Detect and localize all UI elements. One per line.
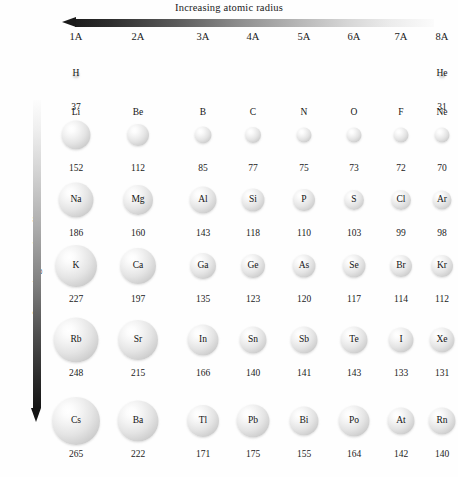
element-symbol-h: H — [73, 69, 80, 79]
top-arrow-caption: Increasing atomic radius — [0, 2, 458, 13]
sphere-area: Ar — [410, 174, 458, 226]
horizontal-arrow-head-icon — [62, 17, 76, 27]
group-header-6a: 6A — [334, 31, 374, 42]
increasing-radius-horizontal-arrow — [62, 17, 434, 28]
sphere-area: He — [410, 48, 458, 100]
atom-sphere-be — [127, 124, 149, 146]
sphere-area: H — [44, 48, 108, 100]
group-header-7a: 7A — [381, 31, 421, 42]
atom-sphere-ne — [435, 128, 450, 143]
element-symbol-k: K — [73, 261, 80, 271]
element-symbol-rn: Rn — [436, 416, 447, 426]
element-symbol-pb: Pb — [248, 416, 258, 426]
element-symbol-se: Se — [349, 261, 359, 271]
element-symbol-kr: Kr — [437, 261, 447, 271]
atomic-radius-value-ar: 98 — [410, 229, 458, 239]
element-symbol-si: Si — [249, 195, 257, 205]
element-symbol-ba: Ba — [133, 416, 144, 426]
element-symbol-ge: Ge — [247, 261, 258, 271]
element-cell-he[interactable]: He31 — [410, 48, 458, 100]
atomic-radius-value-rn: 140 — [410, 450, 458, 460]
element-cell-na[interactable]: Na186 — [44, 174, 108, 226]
sphere-area: Cs — [44, 395, 108, 447]
sphere-area: Na — [44, 174, 108, 226]
group-header-5a: 5A — [284, 31, 324, 42]
element-symbol-ar: Ar — [437, 195, 447, 205]
element-cell-xe[interactable]: Xe131 — [410, 314, 458, 366]
element-symbol-al: Al — [198, 195, 208, 205]
element-symbol-cs: Cs — [71, 416, 81, 426]
element-symbol-ga: Ga — [197, 261, 208, 271]
element-cell-rb[interactable]: Rb248 — [44, 314, 108, 366]
atomic-radius-figure: Increasing atomic radius Increasing atom… — [0, 0, 458, 477]
element-cell-mg[interactable]: Mg160 — [106, 174, 170, 226]
atomic-radius-value-sr: 215 — [106, 369, 170, 379]
element-symbol-in: In — [199, 335, 207, 345]
element-symbol-rb: Rb — [70, 335, 81, 345]
element-cell-ne[interactable]: Ne70 — [410, 109, 458, 161]
element-cell-ar[interactable]: Ar98 — [410, 174, 458, 226]
atom-sphere-b — [195, 127, 212, 144]
atom-sphere-o — [347, 128, 362, 143]
element-symbol-sr: Sr — [134, 335, 142, 345]
group-header-2a: 2A — [118, 31, 158, 42]
element-cell-rn[interactable]: Rn140 — [410, 395, 458, 447]
element-symbol-ca: Ca — [133, 261, 144, 271]
sphere-area: Ca — [106, 240, 170, 292]
element-symbol-na: Na — [70, 195, 81, 205]
atom-sphere-c — [245, 127, 261, 143]
sphere-area: Kr — [410, 240, 458, 292]
sphere-area: K — [44, 240, 108, 292]
element-cell-cs[interactable]: Cs265 — [44, 395, 108, 447]
atomic-radius-value-ba: 222 — [106, 450, 170, 460]
atom-sphere-n — [297, 128, 312, 143]
element-symbol-sb: Sb — [299, 335, 309, 345]
sphere-area: Ba — [106, 395, 170, 447]
element-symbol-xe: Xe — [436, 335, 447, 345]
element-symbol-s: S — [351, 195, 356, 205]
element-symbol-he: He — [436, 69, 447, 79]
vertical-arrow-head-icon — [31, 408, 41, 422]
element-cell-be[interactable]: Be112 — [106, 109, 170, 161]
element-cell-ba[interactable]: Ba222 — [106, 395, 170, 447]
element-symbol-mg: Mg — [131, 195, 144, 205]
element-cell-li[interactable]: Li152 — [44, 109, 108, 161]
sphere-area: Rb — [44, 314, 108, 366]
element-symbol-br: Br — [396, 261, 406, 271]
atomic-radius-value-ne: 70 — [410, 164, 458, 174]
element-symbol-cl: Cl — [397, 195, 406, 205]
sphere-area — [106, 109, 170, 161]
element-symbol-te: Te — [349, 335, 358, 345]
element-cell-h[interactable]: H37 — [44, 48, 108, 100]
element-symbol-bi: Bi — [300, 416, 309, 426]
atomic-radius-value-rb: 248 — [44, 369, 108, 379]
atom-sphere-li — [62, 121, 91, 150]
atomic-radius-value-na: 186 — [44, 229, 108, 239]
atomic-radius-value-ca: 197 — [106, 295, 170, 305]
atomic-radius-value-be: 112 — [106, 164, 170, 174]
element-symbol-as: As — [299, 261, 310, 271]
element-symbol-at: At — [396, 416, 406, 426]
group-header-3a: 3A — [183, 31, 223, 42]
atomic-radius-value-li: 152 — [44, 164, 108, 174]
element-symbol-po: Po — [349, 416, 359, 426]
element-symbol-p: P — [301, 195, 306, 205]
atomic-radius-value-kr: 112 — [410, 295, 458, 305]
element-cell-kr[interactable]: Kr112 — [410, 240, 458, 292]
sphere-area — [410, 109, 458, 161]
element-symbol-tl: Tl — [199, 416, 207, 426]
sphere-area: Rn — [410, 395, 458, 447]
element-symbol-i: I — [399, 335, 402, 345]
element-cell-ca[interactable]: Ca197 — [106, 240, 170, 292]
element-cell-sr[interactable]: Sr215 — [106, 314, 170, 366]
group-header-8a: 8A — [422, 31, 458, 42]
element-cell-k[interactable]: K227 — [44, 240, 108, 292]
element-symbol-sn: Sn — [248, 335, 258, 345]
atomic-radius-value-cs: 265 — [44, 450, 108, 460]
atomic-radius-value-k: 227 — [44, 295, 108, 305]
atomic-radius-value-xe: 131 — [410, 369, 458, 379]
sphere-area — [44, 109, 108, 161]
atom-sphere-f — [394, 128, 409, 143]
sphere-area: Xe — [410, 314, 458, 366]
vertical-arrow-shaft — [33, 100, 41, 408]
